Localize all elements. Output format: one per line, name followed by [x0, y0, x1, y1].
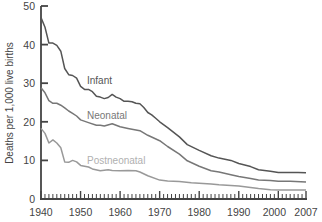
y-tick-label-30: 30: [23, 77, 35, 89]
x-tick-label-1990: 1990: [227, 206, 251, 218]
x-tick-label-1940: 1940: [29, 206, 53, 218]
y-tick-label-20: 20: [23, 116, 35, 128]
postneonatal-label: Postneonatal: [87, 155, 145, 166]
y-tick-label-10: 10: [23, 154, 35, 166]
infant-label: Infant: [87, 75, 112, 86]
neonatal-series-line: [41, 88, 306, 182]
x-tick-label-1980: 1980: [188, 206, 212, 218]
x-tick-label-2000: 2000: [263, 206, 287, 218]
x-tick-label-1950: 1950: [69, 206, 93, 218]
neonatal-label: Neonatal: [87, 110, 127, 121]
x-tick-label-1970: 1970: [148, 206, 172, 218]
x-tick-label-1960: 1960: [108, 206, 132, 218]
x-tick-label-2007: 2007: [294, 206, 318, 218]
y-tick-label-40: 40: [23, 39, 35, 51]
infant-mortality-chart: Deaths per 1,000 live births 0 10 20 30 …: [0, 0, 322, 222]
x-tick-labels: 1940 1950 1960 1970 1980 1990 2000 2007: [29, 206, 318, 218]
y-tick-labels: 0 10 20 30 40 50: [23, 0, 35, 205]
y-tick-label-0: 0: [29, 193, 35, 205]
y-tick-label-50: 50: [23, 0, 35, 12]
y-axis-title: Deaths per 1,000 live births: [4, 42, 15, 164]
